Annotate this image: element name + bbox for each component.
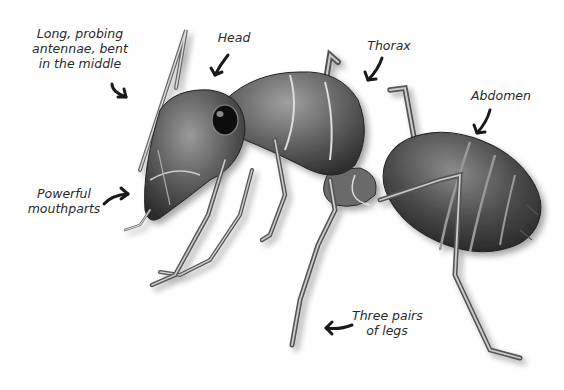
label-abdomen: Abdomen: [466, 88, 536, 103]
label-antennae: Long, probing antennae, bent in the midd…: [30, 26, 130, 71]
arrow-legs-icon: [326, 322, 352, 334]
arrow-abdomen-icon: [474, 110, 490, 133]
label-legs: Three pairs of legs: [352, 308, 422, 338]
arrow-mouthparts-icon: [104, 188, 128, 204]
arrow-thorax-icon: [365, 58, 382, 80]
abdomen: [365, 110, 558, 273]
arrow-antennae-icon: [112, 84, 126, 97]
label-head: Head: [212, 30, 256, 45]
ant-body: [125, 30, 559, 358]
thorax: [225, 72, 365, 175]
label-thorax: Thorax: [362, 38, 416, 53]
arrow-head-icon: [211, 55, 228, 75]
label-mouthparts: Powerful mouthparts: [26, 186, 102, 216]
ant-anatomy-diagram: Long, probing antennae, bent in the midd…: [0, 0, 564, 390]
